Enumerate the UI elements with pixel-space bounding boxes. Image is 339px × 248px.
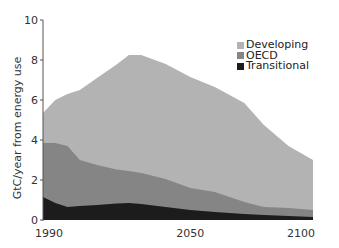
x-tick-label: 2050 xyxy=(176,227,204,240)
legend-swatch-oecd xyxy=(237,52,244,59)
y-tick-label: 10 xyxy=(24,14,38,27)
y-axis-title: GtC/year from energy use xyxy=(11,56,24,199)
plot-area xyxy=(43,55,313,220)
x-axis-ticks: 199020502100 xyxy=(35,227,315,240)
legend-swatch-transitional xyxy=(237,63,244,70)
y-axis-ticks: 0246810 xyxy=(24,14,43,227)
y-tick-label: 0 xyxy=(31,214,38,227)
x-tick-label: 2100 xyxy=(287,227,315,240)
y-tick-label: 8 xyxy=(31,54,38,67)
legend-item-transitional: Transitional xyxy=(237,61,309,72)
y-tick-label: 2 xyxy=(31,174,38,187)
y-tick-label: 6 xyxy=(31,94,38,107)
y-tick-label: 4 xyxy=(31,134,38,147)
x-tick-label: 1990 xyxy=(35,227,63,240)
legend-label: Transitional xyxy=(246,61,309,72)
legend-swatch-developing xyxy=(237,42,244,49)
legend: Developing OECD Transitional xyxy=(237,40,309,72)
